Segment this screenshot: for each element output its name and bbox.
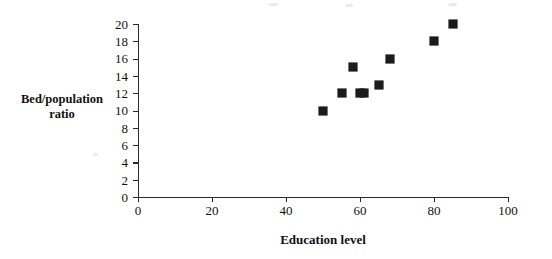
y-tick-label: 18 bbox=[102, 35, 128, 48]
data-point-marker bbox=[360, 89, 368, 97]
y-tick-label: 6 bbox=[102, 139, 128, 152]
data-point-marker bbox=[375, 81, 383, 89]
x-axis-tick bbox=[508, 197, 509, 202]
data-point-marker bbox=[338, 89, 346, 97]
x-tick-label: 0 bbox=[118, 203, 158, 218]
y-tick-label: 10 bbox=[102, 104, 128, 117]
data-point-marker bbox=[386, 55, 394, 63]
x-axis-tick bbox=[286, 197, 287, 202]
x-axis-title: Education level bbox=[138, 232, 508, 247]
x-tick-label: 100 bbox=[488, 203, 528, 218]
scan-artifact bbox=[345, 4, 353, 7]
y-tick-label-group: 20 18 16 14 12 10 8 6 4 2 0 bbox=[100, 0, 128, 259]
data-point-marker bbox=[349, 63, 357, 71]
scan-artifact bbox=[93, 153, 98, 156]
y-tick-label: 4 bbox=[102, 156, 128, 169]
x-axis-tick bbox=[434, 197, 435, 202]
scan-artifact bbox=[448, 3, 457, 6]
x-tick-label: 60 bbox=[340, 203, 380, 218]
x-axis-tick bbox=[360, 197, 361, 202]
x-tick-label: 80 bbox=[414, 203, 454, 218]
y-tick-label: 16 bbox=[102, 52, 128, 65]
x-tick-label: 40 bbox=[266, 203, 306, 218]
y-tick-label: 14 bbox=[102, 70, 128, 83]
x-axis-tick bbox=[212, 197, 213, 202]
y-tick-label: 2 bbox=[102, 174, 128, 187]
scan-artifact bbox=[268, 3, 278, 6]
x-axis-tick bbox=[138, 197, 139, 202]
data-point-marker bbox=[319, 107, 327, 115]
y-tick-label: 8 bbox=[102, 122, 128, 135]
plot-area bbox=[138, 24, 508, 197]
data-point-marker bbox=[430, 37, 438, 45]
y-tick-label: 20 bbox=[102, 18, 128, 31]
data-point-marker bbox=[449, 20, 457, 28]
y-tick-label: 12 bbox=[102, 87, 128, 100]
scatter-chart-figure: Bed/population ratio 20 18 16 14 12 10 8… bbox=[0, 0, 552, 259]
x-tick-label: 20 bbox=[192, 203, 232, 218]
